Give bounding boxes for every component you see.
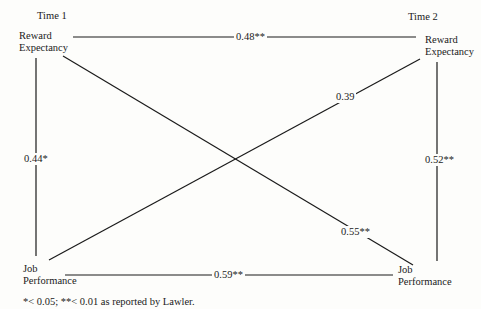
node-label-line1: Reward	[19, 30, 68, 42]
node-label-line2: Expectancy	[425, 46, 474, 58]
node-label-line1: Reward	[425, 34, 474, 46]
time-2-label: Time 2	[408, 11, 438, 23]
node-label-line1: Job	[398, 264, 452, 276]
edge-label-re1-jp1: 0.44*	[22, 153, 50, 165]
node-label-line2: Performance	[398, 276, 452, 288]
edge-label-re1-jp2: 0.55**	[339, 226, 372, 238]
node-reward-expectancy-t2: Reward Expectancy	[425, 34, 474, 58]
node-job-performance-t2: Job Performance	[398, 264, 452, 288]
node-reward-expectancy-t1: Reward Expectancy	[19, 30, 68, 54]
edge-label-re1-re2: 0.48**	[234, 31, 267, 43]
edge-label-jp1-jp2: 0.59**	[212, 269, 245, 281]
edge-label-re2-jp2: 0.52**	[423, 154, 456, 166]
node-job-performance-t1: Job Performance	[23, 263, 77, 287]
edge-label-jp1-re2: 0.39	[334, 91, 356, 103]
node-label-line2: Performance	[23, 275, 77, 287]
footnote: *< 0.05; **< 0.01 as reported by Lawler.	[23, 296, 195, 308]
node-label-line2: Expectancy	[19, 42, 68, 54]
time-1-label: Time 1	[37, 10, 67, 22]
node-label-line1: Job	[23, 263, 77, 275]
